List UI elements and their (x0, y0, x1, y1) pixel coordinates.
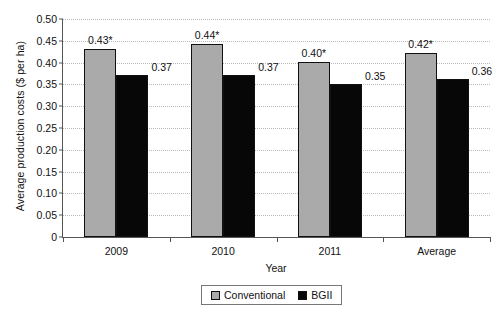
bar-group: 0.40*0.35 (277, 19, 384, 237)
bar-value-label: 0.42* (408, 39, 433, 50)
bar-bgii-2010[interactable]: 0.37 (223, 75, 255, 237)
bar-value-label: 0.37 (258, 62, 278, 73)
bar-conventional-average[interactable]: 0.42* (405, 53, 437, 237)
chart-legend: ConventionalBGII (201, 285, 342, 305)
legend-item[interactable]: Conventional (211, 289, 285, 301)
legend-label: BGII (311, 289, 332, 301)
bar-value-label: 0.37 (151, 62, 171, 73)
bar-conventional-2010[interactable]: 0.44* (191, 44, 223, 237)
legend-swatch-conventional (211, 291, 220, 300)
legend-swatch-bgii (298, 291, 307, 300)
bar-group: 0.43*0.37 (63, 19, 170, 237)
bar-group: 0.42*0.36 (383, 19, 490, 237)
x-axis-category-label: 2011 (319, 245, 342, 257)
legend-item[interactable]: BGII (298, 289, 332, 301)
x-axis-tick-mark (277, 237, 278, 242)
bar-value-label: 0.43* (88, 35, 113, 46)
bar-bgii-2009[interactable]: 0.37 (116, 75, 148, 237)
bar-value-label: 0.44* (195, 30, 220, 41)
bar-value-label: 0.36 (472, 66, 492, 77)
bar-bgii-average[interactable]: 0.36 (437, 79, 469, 237)
x-axis-title: Year (62, 262, 490, 274)
x-axis-tick-mark (170, 237, 171, 242)
bar-groups: 0.43*0.370.44*0.370.40*0.350.42*0.36 (63, 19, 490, 237)
bar-conventional-2009[interactable]: 0.43* (84, 49, 116, 237)
bar-conventional-2011[interactable]: 0.40* (298, 62, 330, 237)
bar-value-label: 0.40* (302, 48, 327, 59)
x-axis-category-label: 2010 (211, 245, 234, 257)
legend-label: Conventional (224, 289, 285, 301)
plot-area: 00.050.100.150.200.250.300.350.400.450.5… (62, 19, 490, 238)
y-axis-title: Average production costs ($ per ha) (14, 11, 28, 241)
x-axis-tick-mark (490, 237, 491, 242)
bar-bgii-2011[interactable]: 0.35 (330, 84, 362, 237)
bar-group: 0.44*0.37 (170, 19, 277, 237)
x-axis-category-label: 2009 (105, 245, 128, 257)
x-axis-tick-mark (63, 237, 64, 242)
bar-value-label: 0.35 (365, 71, 385, 82)
x-axis-category-label: Average (417, 245, 456, 257)
bar-chart-figure: Average production costs ($ per ha) 00.0… (0, 0, 498, 319)
x-axis-tick-mark (383, 237, 384, 242)
